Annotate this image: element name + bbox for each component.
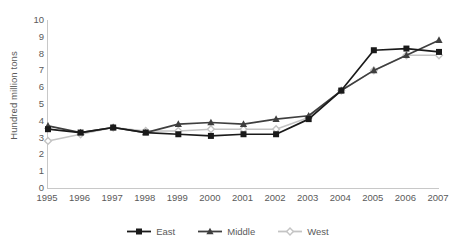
y-axis-tick: 8 [22,49,44,59]
x-axis-tick-labels: 1995199619971998199920002001200220032004… [47,192,438,208]
x-axis-tick: 1999 [167,192,188,204]
legend-marker-diamond-icon [277,226,303,237]
data-point [175,131,181,137]
data-point [436,49,442,55]
x-axis-tick: 2007 [427,192,448,204]
y-axis-tick: 5 [22,99,44,109]
data-point [110,125,116,131]
legend-label: East [156,226,175,237]
y-axis-tick: 1 [22,166,44,176]
series-middle [44,36,442,135]
data-point [306,116,312,122]
legend-marker-triangle-icon [197,226,223,237]
y-axis-tick: 3 [22,133,44,143]
series-line [48,40,439,132]
y-axis-tick: 9 [22,32,44,42]
data-point [403,46,409,52]
x-axis-tick: 2003 [297,192,318,204]
data-point [371,47,377,53]
data-point [273,131,279,137]
legend-label: West [307,226,328,237]
y-axis-tick: 2 [22,149,44,159]
x-axis-tick: 2002 [265,192,286,204]
x-axis-tick: 2006 [395,192,416,204]
y-axis-tick: 7 [22,65,44,75]
y-axis-tick: 4 [22,116,44,126]
x-axis-tick: 2004 [330,192,351,204]
plot-svg [48,20,439,188]
legend-marker-square-icon [126,226,152,237]
x-axis-tick: 1997 [102,192,123,204]
x-axis-tick: 1998 [134,192,155,204]
data-point [338,88,344,94]
data-point [241,131,247,137]
y-axis-tick: 6 [22,82,44,92]
data-point [208,133,214,139]
legend-label: Middle [227,226,255,237]
x-axis-tick: 2001 [232,192,253,204]
data-point [208,126,215,133]
y-axis-title-label: Hundred million tons [8,51,19,140]
x-axis-tick: 1995 [36,192,57,204]
data-point [435,36,442,43]
x-axis-tick: 2000 [199,192,220,204]
legend-item-east[interactable]: East [126,226,175,237]
x-axis-tick: 2005 [362,192,383,204]
y-axis-tick: 10 [22,15,44,25]
y-axis-tick-labels: 012345678910 [22,14,44,190]
legend-item-west[interactable]: West [277,226,328,237]
plot-area [47,20,439,189]
x-axis-tick: 1996 [69,192,90,204]
data-point [78,130,84,136]
legend-item-middle[interactable]: Middle [197,226,255,237]
line-chart: Hundred million tons 012345678910 199519… [0,0,455,248]
chart-legend: EastMiddleWest [0,222,455,240]
data-point [143,130,149,136]
data-point [45,126,51,132]
data-point [45,138,52,145]
